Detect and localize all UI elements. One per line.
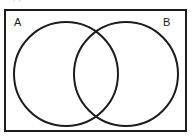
set-a-label: A bbox=[14, 17, 21, 28]
venn-diagram-figure: clipped header text A B bbox=[0, 0, 192, 137]
set-a-circle bbox=[14, 22, 118, 126]
set-b-circle bbox=[74, 22, 178, 126]
set-b-label: B bbox=[163, 17, 170, 28]
